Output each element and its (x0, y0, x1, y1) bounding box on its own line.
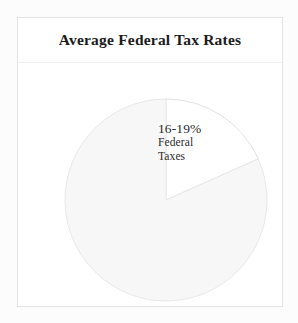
pie-chart-svg (18, 64, 282, 307)
card-header: Average Federal Tax Rates (18, 18, 282, 63)
chart-card: Average Federal Tax Rates 16-19% Federal… (17, 17, 283, 307)
pie-chart-plot-area: 16-19% Federal Taxes (18, 64, 282, 307)
page-title: Average Federal Tax Rates (59, 32, 242, 48)
pie-slice-group (65, 99, 267, 301)
screenshot-canvas: Average Federal Tax Rates 16-19% Federal… (0, 0, 298, 323)
